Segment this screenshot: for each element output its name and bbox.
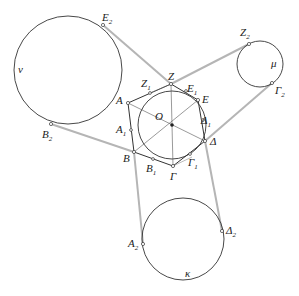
label-A2: A2 bbox=[127, 237, 139, 252]
circle-kappa bbox=[142, 198, 224, 280]
label-mu: μ bbox=[270, 57, 277, 69]
point-A1 bbox=[130, 129, 133, 132]
point-Z bbox=[169, 82, 172, 85]
label-E: E bbox=[201, 93, 209, 105]
label-B1: B1 bbox=[146, 162, 156, 177]
label-Z1: Z1 bbox=[141, 77, 151, 92]
label-A1: A1 bbox=[115, 123, 126, 138]
point-D2 bbox=[220, 229, 223, 232]
label-kappa: κ bbox=[185, 267, 191, 279]
point-G bbox=[171, 164, 174, 167]
label-D1: Δ1 bbox=[200, 114, 211, 129]
point-E2 bbox=[101, 23, 104, 26]
label-G1: Γ1 bbox=[187, 156, 198, 171]
label-G: Γ bbox=[169, 170, 177, 182]
diagonal-B-E bbox=[134, 100, 198, 152]
tangent-D-D2 bbox=[205, 141, 222, 231]
point-Z2 bbox=[247, 42, 250, 45]
label-D2: Δ2 bbox=[225, 224, 236, 239]
label-nu: ν bbox=[18, 63, 23, 75]
label-D: Δ bbox=[209, 135, 216, 147]
geometry-diagram: O A B Γ Δ E Z A1 B1 Γ1 Δ1 E1 Z1 ν μ κ E2… bbox=[0, 0, 299, 296]
tangent-B-A2 bbox=[134, 152, 143, 244]
label-Z: Z bbox=[168, 70, 175, 82]
point-A bbox=[126, 101, 129, 104]
point-A2 bbox=[141, 242, 144, 245]
point-D bbox=[203, 139, 206, 142]
point-B2 bbox=[49, 122, 52, 125]
label-A: A bbox=[115, 94, 123, 106]
tangent-D-G2 bbox=[205, 83, 272, 141]
point-G1 bbox=[189, 153, 192, 156]
circle-nu bbox=[14, 16, 122, 124]
point-B bbox=[132, 150, 135, 153]
label-B2: B2 bbox=[42, 128, 53, 143]
center-point bbox=[170, 123, 174, 127]
label-Z2: Z2 bbox=[240, 26, 250, 41]
label-O: O bbox=[155, 110, 163, 122]
point-B1 bbox=[152, 158, 155, 161]
point-E bbox=[196, 98, 199, 101]
label-B: B bbox=[123, 152, 130, 164]
label-G2: Γ2 bbox=[274, 84, 285, 99]
point-G2 bbox=[270, 81, 273, 84]
point-Z1 bbox=[149, 92, 152, 95]
tangent-Z-E2 bbox=[103, 25, 171, 84]
